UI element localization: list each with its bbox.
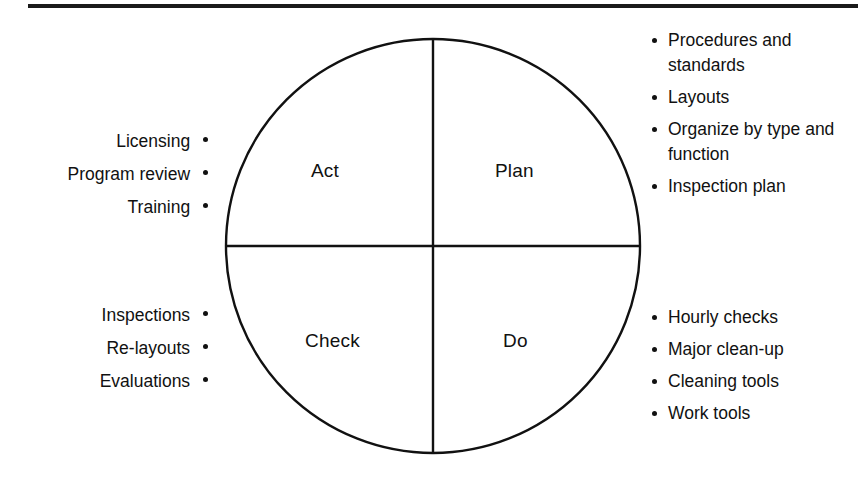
- bullet-icon: [203, 203, 208, 208]
- list-item-label: Training: [128, 197, 191, 217]
- list-item: Work tools: [650, 401, 855, 426]
- list-item: Hourly checks: [650, 305, 855, 330]
- list-item: Organize by type and function: [650, 117, 855, 167]
- list-item-label: Cleaning tools: [668, 371, 779, 391]
- list-item: Training: [0, 194, 208, 220]
- quadrant-label-do: Do: [503, 330, 528, 352]
- list-item-label: Re-layouts: [106, 338, 190, 358]
- list-item: Licensing: [0, 128, 208, 154]
- list-item-label: Procedures and standards: [668, 30, 792, 75]
- list-item-label: Evaluations: [100, 371, 190, 391]
- list-item-label: Program review: [68, 164, 191, 184]
- check-bullet-list: Inspections Re-layouts Evaluations: [0, 302, 208, 394]
- do-bullet-list: Hourly checks Major clean-up Cleaning to…: [650, 305, 855, 426]
- list-item-label: Inspections: [102, 305, 191, 325]
- quadrant-label-plan: Plan: [495, 160, 534, 182]
- bullet-icon: [652, 315, 657, 320]
- bullet-icon: [203, 170, 208, 175]
- act-bullet-list: Licensing Program review Training: [0, 128, 208, 220]
- list-item-label: Work tools: [668, 403, 750, 423]
- list-item-label: Major clean-up: [668, 339, 784, 359]
- bullet-icon: [652, 95, 657, 100]
- bullet-icon: [652, 411, 657, 416]
- list-item-label: Inspection plan: [668, 176, 786, 196]
- bullet-icon: [652, 127, 657, 132]
- list-item: Major clean-up: [650, 337, 855, 362]
- list-item: Layouts: [650, 85, 855, 110]
- bullet-icon: [203, 137, 208, 142]
- list-item: Cleaning tools: [650, 369, 855, 394]
- list-item: Procedures and standards: [650, 28, 855, 78]
- list-item-label: Layouts: [668, 87, 729, 107]
- plan-bullet-list: Procedures and standards Layouts Organiz…: [650, 28, 855, 199]
- bullet-icon: [652, 38, 657, 43]
- list-item-label: Organize by type and function: [668, 119, 834, 164]
- quadrant-label-check: Check: [305, 330, 360, 352]
- list-item: Inspection plan: [650, 174, 855, 199]
- quadrant-label-act: Act: [311, 160, 339, 182]
- bullet-icon: [203, 377, 208, 382]
- list-item: Evaluations: [0, 368, 208, 394]
- bullet-icon: [203, 344, 208, 349]
- list-item-label: Licensing: [116, 131, 190, 151]
- list-item: Re-layouts: [0, 335, 208, 361]
- bullet-icon: [652, 184, 657, 189]
- list-item: Inspections: [0, 302, 208, 328]
- list-item-label: Hourly checks: [668, 307, 778, 327]
- list-item: Program review: [0, 161, 208, 187]
- bullet-icon: [203, 311, 208, 316]
- bullet-icon: [652, 347, 657, 352]
- pdca-diagram-page: Act Plan Check Do Procedures and standar…: [0, 0, 858, 488]
- bullet-icon: [652, 379, 657, 384]
